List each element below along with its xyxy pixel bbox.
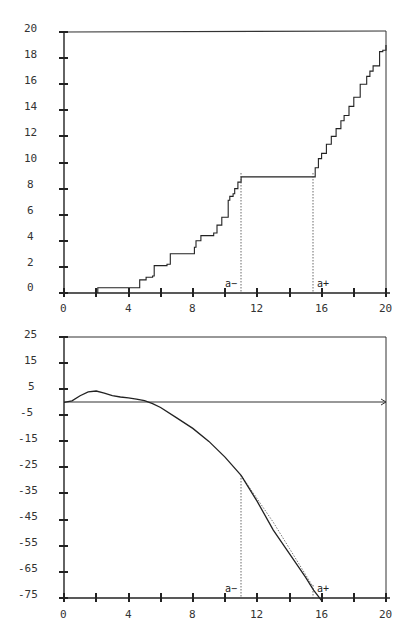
bottom-curve-series xyxy=(64,391,322,601)
y-label: 16 xyxy=(24,74,37,87)
x-label: 0 xyxy=(60,608,67,621)
x-label: 8 xyxy=(189,302,196,315)
y-label: 5 xyxy=(28,380,35,393)
a-minus-label: a− xyxy=(225,583,237,594)
y-label: 8 xyxy=(27,178,34,191)
x-label: 12 xyxy=(250,302,263,315)
y-label: -55 xyxy=(18,536,38,549)
top-x-tick-labels: 0 4 8 12 16 20 xyxy=(60,302,392,315)
top-frame-top xyxy=(64,31,386,32)
y-label: -75 xyxy=(18,588,38,601)
y-label: 6 xyxy=(27,204,34,217)
y-label: -45 xyxy=(18,510,38,523)
y-label: 14 xyxy=(24,100,38,113)
y-label: 25 xyxy=(24,328,37,341)
bottom-x-tick-labels: 0 4 8 12 16 20 xyxy=(60,608,392,621)
bottom-y-tick-labels: 25 15 5 -5 -15 -25 -35 -45 -55 -65 -75 xyxy=(18,328,38,601)
y-label: 10 xyxy=(24,152,37,165)
figure: 20 18 16 14 12 10 8 6 4 2 0 xyxy=(0,0,412,644)
y-label: 2 xyxy=(27,256,34,269)
y-label: 0 xyxy=(27,281,34,294)
y-label: 4 xyxy=(27,230,34,243)
y-label: -25 xyxy=(18,458,38,471)
a-minus-label: a− xyxy=(225,278,237,289)
y-label: -15 xyxy=(18,432,38,445)
y-label: -5 xyxy=(20,406,33,419)
x-label: 4 xyxy=(125,302,132,315)
a-plus-label: a+ xyxy=(317,583,329,594)
top-staircase-series xyxy=(98,45,386,293)
x-label: 4 xyxy=(125,608,132,621)
y-label: 20 xyxy=(24,22,37,35)
x-label: 12 xyxy=(250,608,263,621)
y-label: 12 xyxy=(24,126,37,139)
x-label: 16 xyxy=(315,608,328,621)
y-label: -35 xyxy=(18,484,38,497)
a-plus-label: a+ xyxy=(317,278,329,289)
x-label: 20 xyxy=(379,302,392,315)
y-label: 18 xyxy=(24,48,37,61)
x-label: 8 xyxy=(189,608,196,621)
y-label: -65 xyxy=(18,562,38,575)
x-label: 20 xyxy=(379,608,392,621)
top-plot: 20 18 16 14 12 10 8 6 4 2 0 xyxy=(24,22,392,315)
bottom-plot: 25 15 5 -5 -15 -25 -35 -45 -55 -65 -75 xyxy=(18,328,392,621)
y-label: 15 xyxy=(24,354,37,367)
top-y-tick-labels: 20 18 16 14 12 10 8 6 4 2 0 xyxy=(24,22,38,294)
x-label: 16 xyxy=(315,302,328,315)
x-label: 0 xyxy=(60,302,67,315)
